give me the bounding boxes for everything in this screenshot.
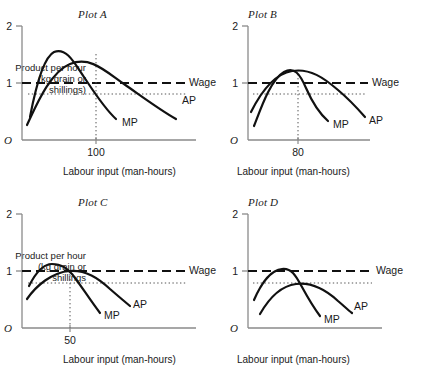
mp-curve	[254, 70, 328, 126]
wage-label: Wage	[376, 264, 403, 276]
ap-label: AP	[354, 300, 368, 312]
panel-plot-a: Plot A 2 1 O	[0, 0, 201, 187]
ap-curve	[27, 271, 130, 306]
origin-label: O	[230, 134, 238, 146]
origin-label: O	[230, 322, 238, 334]
panel-plot-d: Plot D 2 1 O	[220, 188, 421, 375]
x-tick-label: 50	[64, 334, 76, 346]
panel-plot-b: Plot B 2 1 O 80	[220, 0, 421, 187]
mp-label: MP	[104, 309, 120, 321]
x-axis-caption-plot-d: Labour input (man-hours)	[237, 354, 350, 365]
mp-label: MP	[122, 116, 138, 128]
ap-label: AP	[182, 94, 196, 106]
x-axis-caption-plot-c: Labour input (man-hours)	[63, 354, 176, 365]
plot-d-axes: 2 1 O Wage AP MP	[220, 206, 421, 346]
y-tick-2: 2	[6, 208, 12, 220]
ap-curve	[27, 62, 176, 125]
figure-four-plots: Product per hour (kg grain or shillings)…	[0, 0, 421, 375]
wage-label: Wage	[189, 76, 216, 88]
y-tick-1: 1	[6, 77, 12, 89]
ap-curve	[260, 284, 352, 314]
panel-plot-c: Plot C 2 1 O 50	[0, 188, 201, 375]
ap-label: AP	[369, 114, 383, 126]
plot-b-axes: 2 1 O 80 Wage AP MP	[220, 18, 421, 158]
plot-row-top: Product per hour (kg grain or shillings)…	[0, 0, 421, 187]
mp-label: MP	[324, 313, 340, 325]
y-tick-1: 1	[232, 77, 238, 89]
mp-label: MP	[333, 118, 349, 130]
origin-label: O	[4, 134, 12, 146]
wage-label: Wage	[189, 264, 216, 276]
y-tick-1: 1	[232, 265, 238, 277]
plot-a-axes: 2 1 O 100 Wage	[0, 18, 201, 158]
y-tick-2: 2	[232, 208, 238, 220]
x-axis-caption-plot-a: Labour input (man-hours)	[63, 166, 176, 177]
ap-label: AP	[133, 298, 147, 310]
x-tick-label: 100	[87, 146, 105, 158]
mp-curve	[30, 51, 116, 119]
plot-c-axes: 2 1 O 50 Wage AP MP	[0, 206, 201, 346]
y-tick-2: 2	[6, 20, 12, 32]
x-tick-label: 80	[292, 146, 304, 158]
origin-label: O	[4, 322, 12, 334]
wage-label: Wage	[372, 76, 399, 88]
x-axis-caption-plot-b: Labour input (man-hours)	[237, 166, 350, 177]
y-tick-1: 1	[6, 265, 12, 277]
y-tick-2: 2	[232, 20, 238, 32]
plot-row-bottom: Product per hour (kg grain or shillings …	[0, 188, 421, 375]
